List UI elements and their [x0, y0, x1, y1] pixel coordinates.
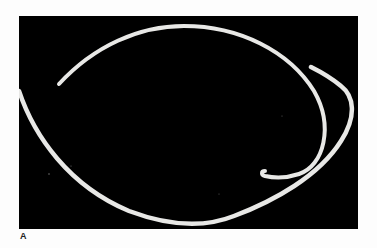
figure-panel: A [0, 0, 377, 248]
panel-label: A [20, 232, 27, 241]
specimen-body [19, 26, 352, 224]
specimen-photo [19, 16, 358, 229]
specimen-drawing [19, 16, 358, 229]
